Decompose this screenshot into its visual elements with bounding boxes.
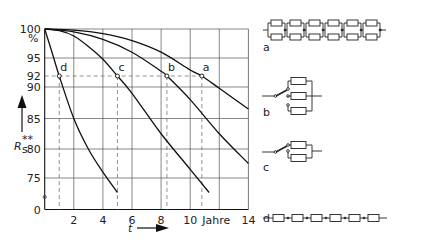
tick-labels: 1009592908580750246810Jahre14 (20, 23, 256, 227)
x-tick-4: 4 (99, 214, 106, 227)
y-tick-85: 85 (27, 113, 41, 126)
circuit-diagram-a (263, 20, 386, 40)
y-axis-superscript: ** (22, 133, 34, 146)
arrow-up-icon (18, 95, 27, 108)
marker-label-c: c (118, 61, 124, 74)
marker-b (165, 74, 169, 78)
y-axis-label: R s ** % (14, 32, 38, 156)
circuit-diagram-c (262, 142, 322, 162)
y-tick-95: 95 (27, 52, 41, 65)
x-axis-symbol: t (128, 222, 133, 235)
marker-c (115, 74, 119, 78)
y-tick-0: 0 (34, 204, 41, 217)
diagram-label-d: d (263, 212, 270, 225)
curve-b (45, 29, 249, 164)
x-tick-2: 2 (70, 214, 77, 227)
x-tick-Jahre: Jahre (201, 214, 230, 227)
diagram-label-a: a (263, 41, 270, 54)
curves (45, 29, 249, 193)
marker-label-a: a (203, 61, 210, 74)
markers: dcba (57, 61, 209, 78)
x-tick-10: 10 (183, 214, 197, 227)
curve-a (45, 29, 249, 109)
marker-a (200, 74, 204, 78)
x-tick-14: 14 (241, 214, 255, 227)
curve-d (45, 29, 118, 193)
diagram-label-c: c (263, 161, 269, 174)
grid (45, 29, 249, 210)
curve-c (45, 29, 209, 193)
y-axis-symbol: R (14, 140, 22, 153)
reliability-chart: dcba 1009592908580750246810Jahre14 R s *… (0, 0, 429, 244)
y-unit: % (28, 32, 38, 45)
marker-label-d: d (60, 61, 67, 74)
y-tick-90: 90 (27, 81, 41, 94)
marker-label-b: b (168, 61, 175, 74)
reference-lines (45, 76, 202, 210)
marker-d (57, 74, 61, 78)
circuit-diagram-b (262, 78, 322, 115)
circuit-diagram-d (263, 215, 387, 222)
y-tick-75: 75 (27, 172, 41, 185)
diagram-label-b: b (263, 106, 270, 119)
